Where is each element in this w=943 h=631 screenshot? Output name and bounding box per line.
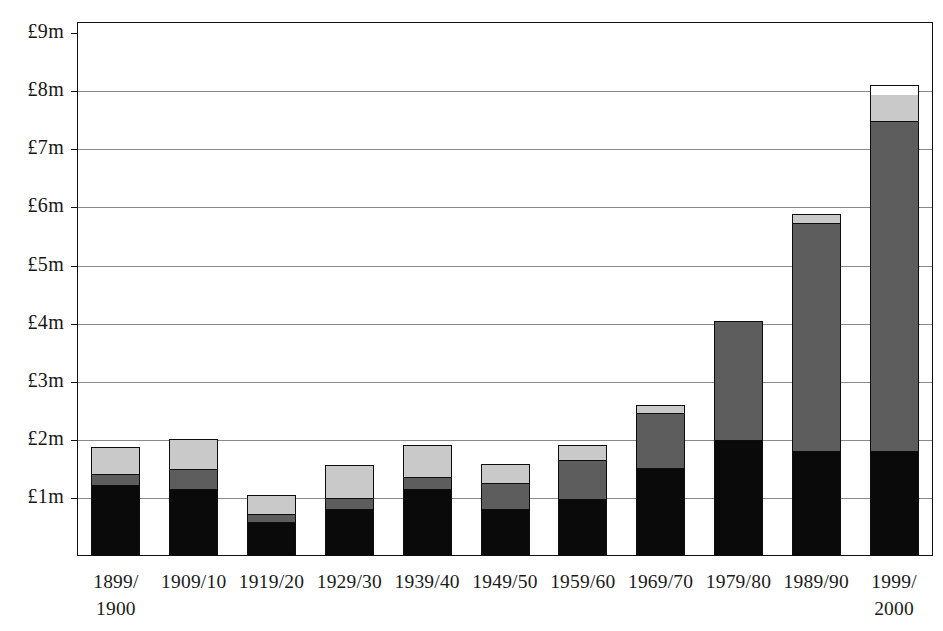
y-axis-tick-label: £7m bbox=[28, 137, 64, 157]
x-axis-tick-label: 1999/ 2000 bbox=[855, 568, 933, 622]
bar-1919/20 bbox=[247, 495, 296, 556]
bar-segment-upper-segment bbox=[482, 465, 529, 484]
bar-segment-bottom-segment bbox=[793, 452, 840, 556]
y-axis-tick-label: £5m bbox=[28, 254, 64, 274]
bar-segment-bottom-segment bbox=[559, 500, 606, 556]
bar-1939/40 bbox=[403, 445, 452, 556]
bar-segment-bottom-segment bbox=[715, 441, 762, 556]
bar-segment-upper-segment bbox=[404, 446, 451, 478]
bar-segment-middle-segment bbox=[248, 515, 295, 523]
bar-segment-upper-segment bbox=[559, 446, 606, 461]
bar-segment-middle-segment bbox=[559, 461, 606, 501]
bar-segment-bottom-segment bbox=[92, 486, 139, 556]
bar-segment-upper-segment bbox=[170, 440, 217, 470]
x-axis-labels: 1899/ 19001909/101919/201929/301939/4019… bbox=[77, 560, 933, 631]
y-axis-tick-label: £9m bbox=[28, 21, 64, 41]
bar-segment-middle-segment bbox=[482, 484, 529, 510]
bar-segment-bottom-segment bbox=[326, 510, 373, 556]
y-axis-tick-label: £4m bbox=[28, 312, 64, 332]
y-axis-tick-label: £6m bbox=[28, 195, 64, 215]
bar-segment-bottom-segment bbox=[871, 452, 918, 556]
x-axis-tick-label: 1899/ 1900 bbox=[77, 568, 155, 622]
bar-segment-upper-segment bbox=[637, 406, 684, 414]
x-axis-tick-label: 1929/30 bbox=[310, 568, 388, 595]
bar-segment-upper-segment bbox=[871, 95, 918, 122]
bar-segment-top-segment bbox=[871, 86, 918, 95]
bar-1999/2000 bbox=[870, 85, 919, 556]
bar-segment-middle-segment bbox=[326, 499, 373, 510]
x-axis-tick-label: 1959/60 bbox=[544, 568, 622, 595]
y-axis-tick-label: £8m bbox=[28, 79, 64, 99]
bar-segment-upper-segment bbox=[248, 496, 295, 515]
bar-segment-bottom-segment bbox=[248, 523, 295, 556]
bar-segment-middle-segment bbox=[170, 470, 217, 490]
bar-segment-middle-segment bbox=[715, 322, 762, 441]
x-axis-tick-label: 1969/70 bbox=[622, 568, 700, 595]
bar-segment-middle-segment bbox=[404, 478, 451, 490]
y-axis-tick-label: £2m bbox=[28, 428, 64, 448]
bar-1989/90 bbox=[792, 214, 841, 556]
x-axis-tick-label: 1979/80 bbox=[700, 568, 778, 595]
y-axis-labels: £1m£2m£3m£4m£5m£6m£7m£8m£9m bbox=[0, 0, 64, 631]
bar-1949/50 bbox=[481, 464, 530, 556]
bar-1959/60 bbox=[558, 445, 607, 556]
x-axis-tick-label: 1919/20 bbox=[233, 568, 311, 595]
bar-segment-middle-segment bbox=[637, 414, 684, 469]
bar-segment-middle-segment bbox=[92, 475, 139, 486]
bar-1899/1900 bbox=[91, 447, 140, 556]
bar-segment-bottom-segment bbox=[482, 510, 529, 556]
stacked-bar-chart: £1m£2m£3m£4m£5m£6m£7m£8m£9m 1899/ 190019… bbox=[0, 0, 943, 631]
bar-segment-middle-segment bbox=[871, 122, 918, 451]
bar-segment-upper-segment bbox=[326, 466, 373, 499]
bar-segment-upper-segment bbox=[92, 448, 139, 475]
bar-1909/10 bbox=[169, 439, 218, 556]
bar-1979/80 bbox=[714, 321, 763, 556]
x-axis-tick-label: 1909/10 bbox=[155, 568, 233, 595]
x-axis-tick-label: 1949/50 bbox=[466, 568, 544, 595]
x-axis-tick-label: 1939/40 bbox=[388, 568, 466, 595]
bar-segment-bottom-segment bbox=[404, 490, 451, 556]
bar-segment-upper-segment bbox=[793, 215, 840, 223]
y-axis-tick-label: £3m bbox=[28, 370, 64, 390]
bar-segment-middle-segment bbox=[793, 224, 840, 452]
bar-1969/70 bbox=[636, 405, 685, 556]
x-axis-tick-label: 1989/90 bbox=[777, 568, 855, 595]
bar-segment-bottom-segment bbox=[170, 490, 217, 556]
y-axis-tick-label: £1m bbox=[28, 486, 64, 506]
bar-1929/30 bbox=[325, 465, 374, 556]
bars-layer bbox=[77, 22, 933, 556]
bar-segment-bottom-segment bbox=[637, 469, 684, 556]
